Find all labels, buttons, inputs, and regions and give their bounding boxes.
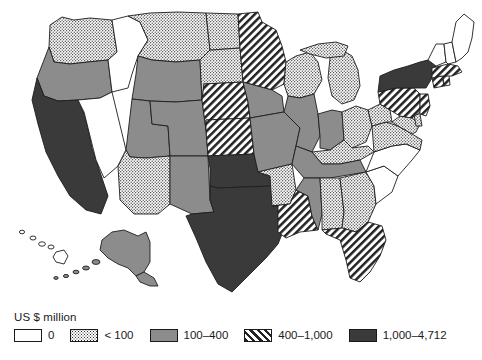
state-wyoming bbox=[132, 56, 202, 102]
legend-swatch-stipple-icon bbox=[70, 329, 98, 342]
legend-item-3: 400–1,000 bbox=[244, 329, 332, 342]
state-minnesota bbox=[238, 12, 286, 90]
legend-label-1: < 100 bbox=[104, 329, 133, 342]
state-florida bbox=[322, 222, 386, 282]
state-hawaii bbox=[19, 230, 68, 264]
state-new-mexico bbox=[170, 156, 214, 214]
legend-item-2: 100–400 bbox=[150, 329, 229, 342]
state-maine bbox=[452, 14, 474, 62]
legend-item-4: 1,000–4,712 bbox=[349, 329, 447, 342]
state-rhode-island bbox=[443, 75, 450, 86]
state-kansas bbox=[206, 118, 254, 156]
legend-swatch-gray-icon bbox=[150, 329, 178, 342]
legend-label-3: 400–1,000 bbox=[278, 329, 332, 342]
state-ohio bbox=[342, 106, 372, 148]
legend-item-0: 0 bbox=[14, 329, 54, 342]
state-north-dakota bbox=[206, 13, 240, 50]
legend-label-0: 0 bbox=[48, 329, 54, 342]
legend-row: 0 < 100 100–400 400–1,000 1,000–4,712 bbox=[14, 327, 474, 343]
legend-label-4: 1,000–4,712 bbox=[383, 329, 447, 342]
state-wisconsin bbox=[284, 52, 322, 98]
us-choropleth-map bbox=[0, 0, 482, 312]
choropleth-figure: US $ million 0 < 100 100–400 400–1,000 1… bbox=[0, 0, 482, 360]
state-alaska-panhandle bbox=[136, 272, 158, 286]
state-shapes bbox=[19, 12, 474, 292]
state-michigan-lp bbox=[328, 50, 360, 104]
map-legend: US $ million 0 < 100 100–400 400–1,000 1… bbox=[14, 311, 474, 343]
legend-swatch-zero-icon bbox=[14, 329, 42, 342]
legend-swatch-dark-icon bbox=[349, 329, 377, 342]
state-arizona bbox=[118, 150, 170, 214]
state-new-jersey bbox=[420, 94, 430, 116]
legend-item-1: < 100 bbox=[70, 329, 133, 342]
legend-swatch-hatch-icon bbox=[244, 329, 272, 342]
state-washington bbox=[49, 17, 117, 64]
state-alabama bbox=[320, 178, 344, 230]
legend-label-2: 100–400 bbox=[184, 329, 229, 342]
legend-title: US $ million bbox=[14, 311, 474, 324]
state-alaska bbox=[100, 230, 150, 276]
state-new-york bbox=[378, 60, 436, 92]
